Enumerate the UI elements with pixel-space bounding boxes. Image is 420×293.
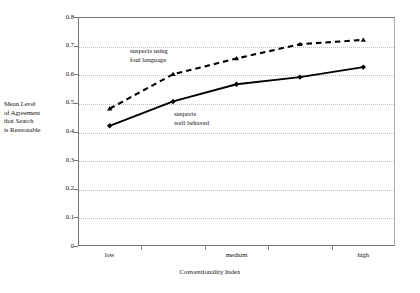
series-label-foul-language: suspects using foul language [130,47,168,65]
x-axis-tick-labels: lowmediumhigh [0,251,420,263]
y-tick-label-0.3: 0.3 [52,157,74,164]
x-tick-label-high: high [357,251,369,258]
y-tick-label-0.2: 0.2 [52,185,74,192]
y-axis-title: Mean Level of Agreement that Search is R… [4,100,66,135]
gridline-0.1 [79,218,394,219]
x-tick-mark-4 [332,246,333,250]
y-tick-label-0.8: 0.8 [52,14,74,21]
x-tick-label-medium: medium [226,251,248,258]
plot-area [78,17,395,246]
series-label-well-behaved-line-2: well behaved [174,119,209,128]
series-label-foul-language-line-2: foul language [130,56,168,65]
x-tick-mark-2 [205,246,206,250]
gridline-0.5 [79,104,394,105]
y-axis-title-line-2: of Agreement [4,109,66,118]
x-axis-title: Conventionality Index [0,268,420,275]
x-tick-mark-3 [268,246,269,250]
y-axis-title-line-1: Mean Level [4,100,66,109]
gridlines [79,18,394,245]
x-tick-label-low: low [105,251,115,258]
y-tick-label-0.1: 0.1 [52,214,74,221]
gridline-0.2 [79,190,394,191]
y-axis-title-line-4: is Reasonable [4,126,66,135]
gridline-0.4 [79,133,394,134]
y-axis-title-line-3: that Search [4,117,66,126]
series-label-foul-language-line-1: suspects using [130,47,168,56]
series-label-well-behaved-line-1: suspects [174,110,209,119]
gridline-0.6 [79,75,394,76]
chart-figure: 00.10.20.30.40.50.60.70.8 Mean Level of … [0,0,420,293]
gridline-0.7 [79,47,394,48]
x-tick-mark-1 [141,246,142,250]
y-tick-label-0.7: 0.7 [52,42,74,49]
series-label-well-behaved: suspects well behaved [174,110,209,128]
gridline-0.3 [79,161,394,162]
y-tick-label-0.6: 0.6 [52,71,74,78]
